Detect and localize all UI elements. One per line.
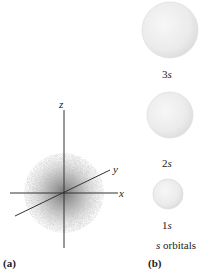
orbital-2s-l: s (168, 157, 172, 169)
x-axis-label: x (119, 187, 124, 199)
y-axis-label: y (113, 163, 118, 175)
orbital-3s-sphere (142, 2, 198, 58)
panel-a-label: (a) (3, 257, 16, 269)
orbital-2s-sphere (147, 92, 193, 138)
orbital-1s-sphere (153, 179, 183, 209)
z-axis-label: z (59, 98, 63, 110)
diagram-canvas (0, 0, 206, 275)
panel-b-label: (b) (148, 257, 161, 269)
coordinate-axes (10, 110, 118, 248)
orbital-3s-label: 3s (162, 68, 172, 80)
orbital-3s-l: s (168, 68, 172, 80)
orbital-2s-label: 2s (162, 157, 172, 169)
s-orbitals-caption: s orbitals (156, 239, 196, 251)
orbital-1s-l: s (168, 219, 172, 231)
caption-orbitals: orbitals (160, 239, 196, 251)
orbital-1s-label: 1s (162, 219, 172, 231)
